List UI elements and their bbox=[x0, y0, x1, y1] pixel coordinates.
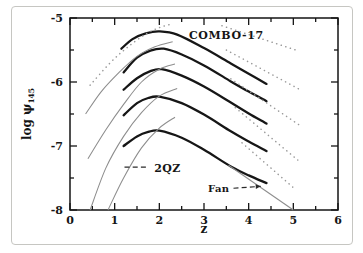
dotted-right-3-curve bbox=[231, 79, 300, 126]
combo17-label: COMBO-17 bbox=[189, 29, 264, 42]
2qz-bin2-curve bbox=[86, 42, 173, 114]
fan-key-dash-arrowhead bbox=[256, 184, 261, 189]
dotted-right-5-curve bbox=[242, 143, 296, 190]
figure-page: 0123456-5-6-7-8COMBO-172QZFanzlog ψ145 bbox=[0, 0, 363, 253]
x-tick-label: 4 bbox=[245, 214, 253, 227]
fan-label: Fan bbox=[208, 183, 230, 194]
combo17-bin2-curve bbox=[124, 49, 267, 102]
x-tick-label: 0 bbox=[66, 214, 74, 227]
dotted-right-2-curve bbox=[226, 50, 300, 90]
x-tick-label: 2 bbox=[156, 214, 164, 227]
x-axis-label: z bbox=[201, 222, 208, 236]
combo17-bin3-curve bbox=[124, 69, 267, 124]
y-tick-label: -6 bbox=[51, 76, 64, 89]
y-tick-label: -7 bbox=[51, 140, 63, 153]
x-tick-label: 6 bbox=[334, 214, 342, 227]
y-tick-label: -5 bbox=[51, 12, 63, 25]
2qz-label: 2QZ bbox=[154, 162, 180, 175]
y-tick-label: -8 bbox=[51, 204, 64, 217]
qso-luminosity-function-plot: 0123456-5-6-7-8COMBO-172QZFanzlog ψ145 bbox=[0, 0, 363, 253]
dotted-left-bin1-curve bbox=[90, 24, 170, 85]
x-tick-label: 1 bbox=[111, 214, 119, 227]
x-tick-label: 5 bbox=[290, 214, 298, 227]
y-axis-label: log ψ145 bbox=[20, 88, 36, 140]
2qz-bin3-curve bbox=[88, 64, 175, 159]
